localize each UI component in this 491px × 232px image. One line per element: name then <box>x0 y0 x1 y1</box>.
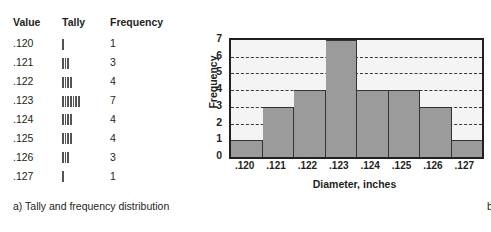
histogram-bar <box>263 107 295 157</box>
histogram-bar <box>294 90 326 157</box>
tally-stroke <box>62 171 64 182</box>
tally-stroke <box>67 58 69 69</box>
cell-value: .126 <box>13 147 62 166</box>
table-row: .1254 <box>13 129 170 148</box>
cell-frequency: 4 <box>110 110 170 129</box>
y-tick-label: 2 <box>216 116 222 127</box>
table-row: .1263 <box>13 147 170 166</box>
tally-stroke <box>67 152 69 163</box>
cell-frequency: 3 <box>110 53 170 72</box>
tally-frequency-table: Value Tally Frequency .1201.1213.1224.12… <box>13 16 170 185</box>
histogram-bar <box>326 40 358 157</box>
cell-value: .125 <box>13 129 62 148</box>
y-tick-label: 5 <box>216 66 222 77</box>
table-row: .1224 <box>13 72 170 91</box>
tally-stroke <box>65 77 67 88</box>
histogram-bar <box>357 90 389 157</box>
tally-stroke <box>75 96 77 107</box>
x-tick-label: .123 <box>323 160 354 171</box>
histogram-bar <box>231 140 263 157</box>
table-row: .1213 <box>13 53 170 72</box>
tally-marks <box>62 114 73 125</box>
x-tick-label: .121 <box>260 160 291 171</box>
x-tick-label: .126 <box>417 160 448 171</box>
caption-panel-b: b) Frequency histogram <box>487 200 491 212</box>
tally-stroke <box>62 114 64 125</box>
cell-frequency: 1 <box>110 34 170 53</box>
histogram-bar <box>389 90 421 157</box>
table-row: .1244 <box>13 110 170 129</box>
cell-tally <box>62 53 110 72</box>
cell-tally <box>62 147 110 166</box>
tally-marks <box>62 39 65 50</box>
tally-stroke <box>62 39 64 50</box>
caption-panel-a: a) Tally and frequency distribution <box>13 200 169 212</box>
x-axis-label: Diameter, inches <box>229 178 480 190</box>
y-tick-label: 0 <box>216 150 222 161</box>
tally-stroke <box>62 77 64 88</box>
cell-tally <box>62 34 110 53</box>
tally-stroke <box>70 133 72 144</box>
x-tick-label: .122 <box>292 160 323 171</box>
cell-frequency: 1 <box>110 166 170 185</box>
histogram-bar <box>452 140 483 157</box>
tally-stroke <box>62 96 64 107</box>
tally-stroke <box>67 114 69 125</box>
column-header-frequency: Frequency <box>110 16 170 34</box>
tally-marks <box>62 152 70 163</box>
tally-stroke <box>62 58 64 69</box>
tally-marks <box>62 77 73 88</box>
tally-marks <box>62 171 65 182</box>
tally-stroke <box>62 133 64 144</box>
cell-value: .127 <box>13 166 62 185</box>
y-axis-ticks: 01234567 <box>210 35 222 155</box>
cell-tally <box>62 72 110 91</box>
table-row: .1237 <box>13 91 170 110</box>
table-header-row: Value Tally Frequency <box>13 16 170 34</box>
tally-stroke <box>70 114 72 125</box>
tally-frequency-panel: Value Tally Frequency .1201.1213.1224.12… <box>0 0 196 232</box>
cell-tally <box>62 129 110 148</box>
tally-stroke <box>78 96 80 107</box>
table-row: .1201 <box>13 34 170 53</box>
x-tick-label: .120 <box>229 160 260 171</box>
table-row: .1271 <box>13 166 170 185</box>
cell-frequency: 3 <box>110 147 170 166</box>
tally-stroke <box>67 77 69 88</box>
tally-stroke <box>62 152 64 163</box>
table-body: .1201.1213.1224.1237.1244.1254.1263.1271 <box>13 34 170 185</box>
histogram-bar <box>420 107 452 157</box>
column-header-value: Value <box>13 16 62 34</box>
tally-stroke <box>67 96 69 107</box>
tally-stroke <box>67 133 69 144</box>
x-tick-label: .125 <box>386 160 417 171</box>
y-tick-label: 7 <box>216 33 222 44</box>
y-tick-label: 1 <box>216 133 222 144</box>
x-tick-label: .124 <box>355 160 386 171</box>
y-tick-label: 4 <box>216 83 222 94</box>
cell-tally <box>62 91 110 110</box>
cell-frequency: 7 <box>110 91 170 110</box>
plot-area <box>229 38 484 159</box>
cell-value: .122 <box>13 72 62 91</box>
y-tick-label: 3 <box>216 100 222 111</box>
x-axis-ticks: .120.121.122.123.124.125.126.127 <box>229 160 480 171</box>
cell-value: .124 <box>13 110 62 129</box>
frequency-histogram-panel: Frequency 01234567 .120.121.122.123.124.… <box>196 0 491 232</box>
cell-value: .123 <box>13 91 62 110</box>
cell-tally <box>62 110 110 129</box>
cell-value: .120 <box>13 34 62 53</box>
y-tick-label: 6 <box>216 49 222 60</box>
tally-marks <box>62 58 70 69</box>
x-tick-label: .127 <box>449 160 480 171</box>
tally-stroke <box>70 96 72 107</box>
column-header-tally: Tally <box>62 16 110 34</box>
tally-stroke <box>73 96 75 107</box>
cell-frequency: 4 <box>110 129 170 148</box>
tally-stroke <box>65 152 67 163</box>
cell-tally <box>62 166 110 185</box>
tally-stroke <box>65 114 67 125</box>
cell-value: .121 <box>13 53 62 72</box>
tally-stroke <box>65 133 67 144</box>
tally-stroke <box>70 77 72 88</box>
